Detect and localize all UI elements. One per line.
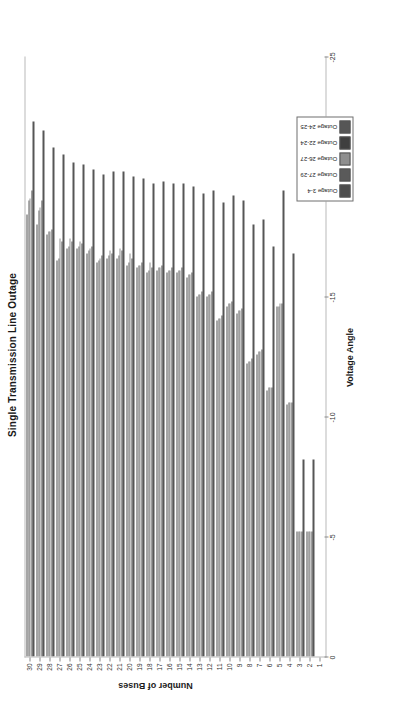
bar — [199, 294, 200, 656]
bar — [289, 402, 290, 656]
y-tick — [169, 657, 170, 661]
bar — [141, 262, 142, 656]
y-tick-label: 7 — [256, 663, 263, 667]
bar — [56, 260, 57, 656]
bar — [298, 531, 299, 656]
plot-area — [24, 56, 326, 657]
bar — [219, 318, 220, 656]
bar — [189, 274, 190, 656]
y-tick-label: 27 — [56, 663, 63, 670]
bar — [262, 219, 263, 656]
y-tick — [299, 657, 300, 661]
bar — [28, 200, 29, 656]
legend-item[interactable]: Outage 22-24 — [300, 136, 350, 149]
y-tick-label: 10 — [226, 663, 233, 670]
bar — [206, 296, 207, 656]
bar — [308, 531, 309, 656]
y-tick — [289, 657, 290, 661]
bar — [128, 262, 129, 656]
x-tick — [324, 416, 328, 417]
bar — [31, 190, 32, 656]
y-tick — [259, 657, 260, 661]
bar — [301, 531, 302, 656]
bar — [132, 176, 133, 656]
y-tick-label: 25 — [76, 663, 83, 670]
bar — [142, 178, 143, 656]
bar — [188, 274, 189, 656]
bar — [276, 306, 277, 656]
x-tick — [324, 536, 328, 537]
y-tick-label: 23 — [96, 663, 103, 670]
bar — [226, 306, 227, 656]
y-tick-label: 8 — [246, 663, 253, 667]
bar — [39, 207, 40, 656]
bar — [256, 354, 257, 656]
y-tick — [309, 657, 310, 661]
y-tick-label: 1 — [316, 663, 323, 667]
bar — [172, 183, 173, 656]
y-tick — [129, 657, 130, 661]
bar — [279, 303, 280, 656]
legend-item[interactable]: Outage 26-27 — [300, 152, 350, 165]
bar — [108, 255, 109, 656]
bar — [218, 318, 219, 656]
bar — [216, 320, 217, 656]
legend-item[interactable]: Outage 3-4 — [307, 184, 350, 197]
bar — [269, 387, 270, 656]
legend-swatch — [339, 184, 350, 197]
bar — [266, 390, 267, 656]
legend-label: Outage 26-27 — [300, 156, 337, 162]
bar — [258, 351, 259, 656]
legend-swatch — [339, 120, 350, 133]
bar — [121, 250, 122, 656]
y-tick-label: 16 — [166, 663, 173, 670]
bar — [81, 243, 82, 656]
bar — [89, 248, 90, 656]
y-tick — [239, 657, 240, 661]
legend[interactable]: Outage 3-4Outage 27-29Outage 26-27Outage… — [296, 116, 353, 201]
y-tick — [159, 657, 160, 661]
legend-label: Outage 24-25 — [300, 124, 337, 130]
y-tick — [219, 657, 220, 661]
bar — [246, 363, 247, 656]
y-tick-label: 13 — [196, 663, 203, 670]
bar — [38, 210, 39, 656]
legend-item[interactable]: Outage 27-29 — [300, 168, 350, 181]
bar — [76, 248, 77, 656]
y-tick — [49, 657, 50, 661]
y-tick-label: 14 — [186, 663, 193, 670]
y-tick — [199, 657, 200, 661]
y-tick-label: 11 — [216, 663, 223, 670]
y-tick — [189, 657, 190, 661]
bar — [88, 250, 89, 656]
bar — [69, 238, 70, 656]
screenshot-canvas: Single Transmission Line Outage 0-5-10-1… — [0, 0, 394, 709]
bar — [236, 313, 237, 656]
bar — [166, 272, 167, 656]
bar — [49, 231, 50, 656]
bar — [191, 272, 192, 656]
bar — [118, 255, 119, 656]
bar — [192, 186, 193, 656]
bar — [249, 361, 250, 656]
bar — [41, 200, 42, 656]
bar — [111, 253, 112, 656]
bar — [139, 265, 140, 656]
bar — [309, 531, 310, 656]
x-tick-label: 0 — [328, 655, 335, 659]
bar — [281, 303, 282, 656]
x-tick-label: -25 — [328, 52, 335, 62]
y-tick — [99, 657, 100, 661]
y-tick-label: 28 — [46, 663, 53, 670]
bar — [122, 171, 123, 656]
bar — [272, 246, 273, 656]
bar — [151, 267, 152, 656]
y-tick-label: 26 — [66, 663, 73, 670]
bar — [158, 267, 159, 656]
y-tick — [319, 657, 320, 661]
bar — [148, 270, 149, 656]
legend-item[interactable]: Outage 24-25 — [300, 120, 350, 133]
bar — [42, 130, 43, 656]
x-tick-label: -15 — [328, 292, 335, 302]
y-tick — [229, 657, 230, 661]
